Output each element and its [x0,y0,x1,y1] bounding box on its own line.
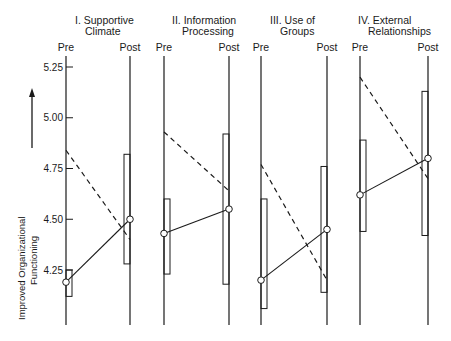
panel-subtitle: Groups [280,25,314,37]
panel-4: IV. ExternalRelationshipsPrePost [352,14,439,325]
pre-label: Pre [352,41,369,53]
pre-range-box [261,199,267,309]
post-mean-marker [127,216,134,223]
solid-trend-line [360,158,428,195]
post-label: Post [119,41,140,53]
pre-mean-marker [161,230,168,237]
dashed-trend-line [261,164,327,280]
post-label: Post [218,41,239,53]
pre-mean-marker [357,192,364,199]
y-tick-label: 5.25 [44,62,64,73]
panel-3: III. Use ofGroupsPrePost [253,14,338,325]
post-mean-marker [324,226,331,233]
dashed-trend-line [164,132,229,191]
up-arrow-icon [29,88,35,148]
y-tick-label: 4.50 [44,214,64,225]
pre-range-box [360,140,366,231]
panel-2: II. InformationProcessingPrePost [156,14,240,325]
post-mean-marker [226,206,233,213]
post-range-box [422,91,428,235]
solid-trend-line [164,209,229,233]
pre-label: Pre [58,41,75,53]
solid-trend-line [66,219,130,282]
panel-subtitle: Processing [182,25,234,37]
pre-label: Pre [253,41,270,53]
y-tick-label: 4.75 [44,163,64,174]
pre-mean-marker [63,279,70,286]
post-label: Post [316,41,337,53]
panel-subtitle: Relationships [368,25,431,37]
post-mean-marker [425,155,432,162]
post-label: Post [417,41,438,53]
panel-1: I. SupportiveClimatePrePost [58,14,141,325]
y-axis-ticks: 5.255.004.754.504.25 [44,62,73,276]
pre-label: Pre [156,41,173,53]
pre-mean-marker [258,277,265,284]
chart-canvas: Improved Organizational Functioning 5.25… [0,0,451,341]
panel-subtitle: Climate [85,25,121,37]
y-axis-label-line2: Functioning [28,236,39,285]
solid-trend-line [261,229,327,280]
y-tick-label: 4.25 [44,265,64,276]
post-range-box [124,154,130,264]
dashed-trend-line [66,150,130,239]
chart-panels: I. SupportiveClimatePrePostII. Informati… [58,14,439,325]
y-tick-label: 5.00 [44,112,64,123]
y-axis-label-line1: Improved Organizational [16,217,27,321]
